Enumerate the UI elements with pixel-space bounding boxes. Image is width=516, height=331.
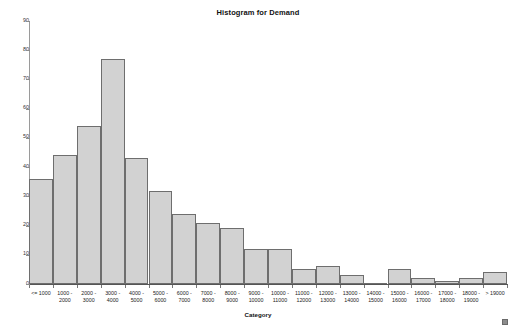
x-axis-tick-mark	[125, 285, 126, 288]
histogram-bar[interactable]	[411, 278, 435, 284]
x-axis-tick-mark	[483, 285, 484, 288]
histogram-bar[interactable]	[292, 269, 316, 284]
x-axis-tick-mark	[435, 285, 436, 288]
x-axis-tick-mark	[172, 285, 173, 288]
histogram-bar[interactable]	[340, 275, 364, 284]
histogram-bar[interactable]	[53, 155, 77, 284]
x-axis-tick-mark	[77, 285, 78, 288]
x-axis-tick-mark	[220, 285, 221, 288]
histogram-bar[interactable]	[364, 283, 388, 284]
histogram-bar[interactable]	[244, 249, 268, 284]
plot-area	[29, 21, 507, 284]
histogram-bar[interactable]	[483, 272, 507, 284]
histogram-bar[interactable]	[149, 191, 173, 285]
x-axis-tick-label-line: > 19000	[470, 290, 516, 297]
chart-title: Histogram for Demand	[0, 8, 516, 17]
histogram-bar[interactable]	[77, 126, 101, 284]
histogram-bar[interactable]	[316, 266, 340, 284]
x-axis-tick-mark	[196, 285, 197, 288]
x-axis-tick-mark	[29, 285, 30, 288]
x-axis-tick-mark	[507, 285, 508, 288]
x-axis-tick-mark	[459, 285, 460, 288]
x-axis-tick-mark	[340, 285, 341, 288]
histogram-bar[interactable]	[196, 223, 220, 284]
histogram-bar[interactable]	[388, 269, 412, 284]
x-axis-tick-mark	[388, 285, 389, 288]
histogram-chart: Histogram for Demand 9080706050403020100…	[0, 0, 516, 331]
histogram-bar[interactable]	[220, 228, 244, 284]
x-axis-tick-label: > 19000	[470, 290, 516, 297]
histogram-bar[interactable]	[435, 281, 459, 284]
x-axis-tick-mark	[244, 285, 245, 288]
histogram-bar[interactable]	[172, 214, 196, 284]
x-axis-title: Category	[0, 311, 516, 318]
x-axis-tick-mark	[364, 285, 365, 288]
x-axis-tick-mark	[411, 285, 412, 288]
x-axis-tick-label-line: 19000	[446, 297, 496, 304]
histogram-bar[interactable]	[459, 278, 483, 284]
x-axis-tick-mark	[268, 285, 269, 288]
x-axis-tick-mark	[149, 285, 150, 288]
histogram-bar[interactable]	[29, 179, 53, 284]
histogram-bar[interactable]	[268, 249, 292, 284]
x-axis-tick-mark	[316, 285, 317, 288]
x-axis-tick-mark	[53, 285, 54, 288]
x-axis-tick-mark	[101, 285, 102, 288]
corner-marker-icon	[502, 319, 508, 325]
x-axis-tick-mark	[292, 285, 293, 288]
histogram-bar[interactable]	[101, 59, 125, 284]
histogram-bar[interactable]	[125, 158, 149, 284]
